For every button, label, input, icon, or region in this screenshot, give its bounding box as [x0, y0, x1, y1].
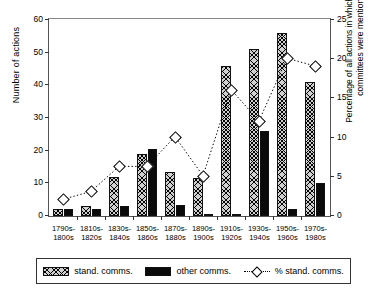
x-axis-label-line: 1840s [106, 233, 134, 242]
legend-item-2[interactable]: other comms. [145, 266, 231, 276]
y-axis-left-tick [45, 215, 49, 216]
x-axis-label-line: 1790s- [50, 224, 78, 233]
x-axis-label-line: 1910s- [218, 224, 246, 233]
x-axis-label-line: 1880s [162, 233, 190, 242]
legend-item-label: % stand. comms. [275, 266, 344, 276]
legend-item-3[interactable]: % stand. comms. [244, 266, 344, 276]
x-axis-tick [245, 216, 246, 220]
bar-other-comms [176, 205, 186, 216]
legend-swatch-hatched-square-icon [43, 267, 69, 276]
x-axis-label-line: 1960s [274, 233, 302, 242]
bar-other-comms [64, 209, 74, 216]
percent-line-marker [85, 186, 98, 199]
x-axis-label-line: 1850s- [134, 224, 162, 233]
x-axis-tick [133, 216, 134, 220]
x-axis-tick [189, 216, 190, 220]
bar-stand-comms [193, 178, 203, 216]
y-axis-left-tick-label: 60 [34, 15, 43, 24]
x-axis-label-line: 1820s [78, 233, 106, 242]
x-axis-label: 1970s-1980s [302, 224, 330, 242]
x-axis-label-line: 1800s [50, 233, 78, 242]
y-axis-right-tick [330, 215, 334, 216]
x-axis-label-line: 1900s [190, 233, 218, 242]
bar-other-comms [316, 183, 326, 216]
bar-stand-comms [81, 206, 91, 216]
plot-inner: 01020304050600510152025 [49, 19, 330, 216]
y-axis-left-tick-label: 50 [34, 48, 43, 57]
x-axis-label-line: 1920s [218, 233, 246, 242]
legend-item-label: stand. comms. [74, 266, 133, 276]
x-axis-label: 1830s-1840s [106, 224, 134, 242]
x-axis-label: 1910s-1920s [218, 224, 246, 242]
chart-legend: stand. comms.other comms.% stand. comms. [36, 258, 351, 284]
x-axis-tick [161, 216, 162, 220]
legend-swatch-dotted-line-diamond-icon [244, 267, 270, 276]
x-axis-tick [273, 216, 274, 220]
bar-stand-comms [53, 209, 63, 216]
percent-line-marker [57, 193, 70, 206]
x-axis-label: 1850s-1860s [134, 224, 162, 242]
y-axis-left-title: Number of actions [11, 0, 21, 145]
bar-other-comms [120, 206, 130, 216]
bar-stand-comms [165, 172, 175, 216]
x-axis-label: 1890s-1900s [190, 224, 218, 242]
y-axis-right-tick-label: 5 [337, 172, 342, 181]
x-axis-label-line: 1860s [134, 233, 162, 242]
x-axis-label-line: 1980s [302, 233, 330, 242]
x-axis-label: 1810s-1820s [78, 224, 106, 242]
y-axis-left-tick-label: 40 [34, 80, 43, 89]
percent-line-series [49, 19, 349, 169]
x-axis-tick [301, 216, 302, 220]
y-axis-right-tick [330, 176, 334, 177]
x-axis-label: 1790s-1800s [50, 224, 78, 242]
x-axis-label: 1950s-1960s [274, 224, 302, 242]
y-axis-left-tick [45, 182, 49, 183]
legend-item-1[interactable]: stand. comms. [43, 266, 133, 276]
x-axis-tick [217, 216, 218, 220]
x-axis-label-line: 1810s- [78, 224, 106, 233]
y-axis-left-tick-label: 20 [34, 146, 43, 155]
y-axis-right-tick-label: 0 [337, 211, 342, 220]
chart-figure: Number of actions Percentage of all acti… [0, 0, 386, 294]
bar-other-comms [92, 209, 102, 216]
bar-stand-comms [109, 177, 119, 216]
x-axis-tick [77, 216, 78, 220]
bar-other-comms [232, 214, 242, 216]
legend-item-label: other comms. [176, 266, 231, 276]
x-axis-label: 1870s-1880s [162, 224, 190, 242]
x-axis-label-line: 1870s- [162, 224, 190, 233]
x-axis-label-line: 1950s- [274, 224, 302, 233]
x-axis-label-line: 1830s- [106, 224, 134, 233]
y-axis-left-tick-label: 10 [34, 178, 43, 187]
x-axis-label: 1930s-1940s [246, 224, 274, 242]
bar-other-comms [204, 214, 214, 216]
x-axis-label-line: 1940s [246, 233, 274, 242]
y-axis-left-tick-label: 30 [34, 113, 43, 122]
legend-swatch-filled-square-icon [145, 267, 171, 276]
plot-area: 01020304050600510152025 [48, 18, 331, 217]
bar-other-comms [288, 209, 298, 216]
x-axis-label-line: 1890s- [190, 224, 218, 233]
x-axis-label-line: 1970s- [302, 224, 330, 233]
y-axis-left-tick-label: 0 [38, 211, 43, 220]
x-axis-label-line: 1930s- [246, 224, 274, 233]
x-axis-tick [105, 216, 106, 220]
